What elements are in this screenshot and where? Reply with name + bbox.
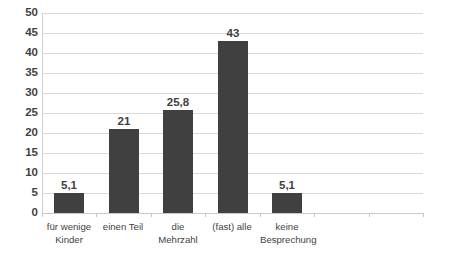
y-axis-tick-label: 35 — [0, 67, 38, 78]
y-axis-tick-label: 0 — [0, 207, 38, 218]
x-axis-category-label: (fast) alle — [205, 220, 259, 233]
x-axis-category-label: die Mehrzahl — [151, 220, 205, 246]
bar — [218, 41, 248, 213]
x-axis-category-label: für wenige Kinder — [42, 220, 96, 246]
bar-value-label: 25,8 — [148, 96, 208, 108]
bar-chart: 05101520253035404550 5,12125,8435,1 für … — [0, 0, 455, 266]
x-axis-tick — [260, 213, 261, 217]
x-axis-tick — [42, 213, 43, 217]
bar-value-label: 21 — [94, 115, 154, 127]
bar — [272, 193, 302, 213]
bar-value-label: 5,1 — [257, 179, 317, 191]
y-axis-tick-label: 5 — [0, 187, 38, 198]
x-axis-tick — [423, 213, 424, 217]
y-axis-tick-label: 40 — [0, 47, 38, 58]
x-axis-category-label: einen Teil — [96, 220, 150, 233]
y-axis-tick-label: 15 — [0, 147, 38, 158]
y-axis-tick-label: 45 — [0, 27, 38, 38]
x-axis-category-label: keine Besprechung — [260, 220, 314, 246]
bar-value-label: 43 — [203, 27, 263, 39]
y-axis-tick-label: 30 — [0, 87, 38, 98]
bar — [163, 110, 193, 213]
x-axis-tick — [314, 213, 315, 217]
y-axis-tick-label: 25 — [0, 107, 38, 118]
x-axis-line — [42, 213, 423, 214]
y-axis-tick-label: 50 — [0, 7, 38, 18]
bar — [54, 193, 84, 213]
y-axis-tick-label: 20 — [0, 127, 38, 138]
gridline — [42, 13, 423, 14]
y-axis-tick-label: 10 — [0, 167, 38, 178]
bar — [109, 129, 139, 213]
bar-value-label: 5,1 — [39, 179, 99, 191]
x-axis-tick — [151, 213, 152, 217]
x-axis-tick — [96, 213, 97, 217]
x-axis-tick — [369, 213, 370, 217]
x-axis-tick — [205, 213, 206, 217]
